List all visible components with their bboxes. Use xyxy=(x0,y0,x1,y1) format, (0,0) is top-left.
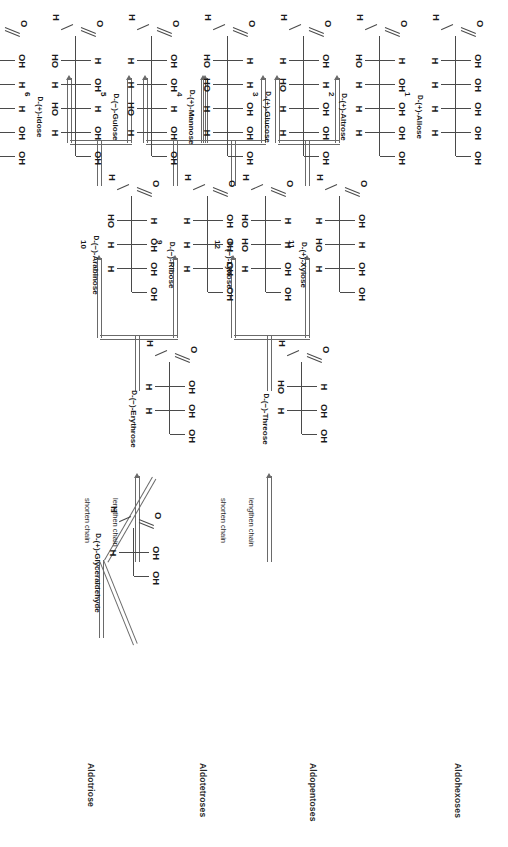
stereocenter-bond-down xyxy=(155,386,170,387)
substituent-hydroxyl: OH xyxy=(18,51,28,71)
stereocenter-bond-up xyxy=(0,84,15,85)
stereocenter-bond-up xyxy=(76,84,91,85)
sugar-name-text: -(+)-Altrose xyxy=(339,98,348,141)
substituent-hydroxyl: OH xyxy=(474,51,484,71)
substituent-hydroxyl: OH xyxy=(94,123,104,143)
sugar-name-text: -(+)-Allose xyxy=(415,100,424,139)
stereocenter-bond-up xyxy=(152,84,167,85)
arrow-threose-branch-riser-12 xyxy=(234,335,272,340)
terminal-bond xyxy=(76,156,91,157)
aldehyde-ch-bond xyxy=(289,24,301,30)
aldehyde-ch-bond xyxy=(193,184,205,190)
substituent-hydrogen: H xyxy=(431,75,441,95)
row-header-aldotetroses: Aldotetroses xyxy=(198,763,208,817)
stereocenter-bond-down xyxy=(289,108,304,109)
substituent-hydrogen: H xyxy=(94,99,104,119)
stereocenter-bond-down xyxy=(441,108,456,109)
substituent-hydrogen: H xyxy=(284,211,294,231)
aldehyde-hydrogen-label: H xyxy=(109,506,120,513)
stereocenter-bond-up xyxy=(266,220,281,221)
substituent-hydroxyl: OH xyxy=(246,123,256,143)
stereocenter-bond-down xyxy=(213,132,228,133)
stereocenter-bond-up xyxy=(456,84,471,85)
stereocenter-bond-down xyxy=(117,220,132,221)
stereocenter-bond-up xyxy=(304,84,319,85)
sugar-name-text: -(−)-Ribose xyxy=(167,246,176,288)
carbonyl-oxygen-label: O xyxy=(189,346,200,353)
sugar-name-caption: D-(−)-Gulose xyxy=(111,62,120,172)
substituent-hydroxyl: OH xyxy=(320,401,330,421)
label-shorten-chain-upper: shorten chain xyxy=(219,498,228,543)
terminal-hydroxyl: OH xyxy=(358,283,368,305)
stereocenter-bond-up xyxy=(228,84,243,85)
substituent-hydrogen: H xyxy=(279,123,289,143)
aldehyde-hydrogen-label: H xyxy=(279,14,290,21)
stereocenter-bond-up xyxy=(170,386,185,387)
carbon-backbone xyxy=(303,36,304,156)
substituent-hydroxyl: OH xyxy=(150,259,160,279)
stereocenter-bond-down xyxy=(251,244,266,245)
arrow-threose-feed xyxy=(267,476,272,562)
stereocenter-bond-down xyxy=(61,132,76,133)
stereocenter-bond-up xyxy=(380,60,395,61)
substituent-hydrogen: H xyxy=(315,259,325,279)
aldehyde-hydrogen-label: H xyxy=(203,14,214,21)
terminal-hydroxyl: OH xyxy=(398,147,408,169)
sugar-name-caption: D-(+)-Altrose xyxy=(339,62,348,172)
substituent-hydrogen: H xyxy=(107,235,117,255)
aldehyde-hydrogen-label: H xyxy=(431,14,442,21)
stereocenter-bond-up xyxy=(340,244,355,245)
substituent-hydroxyl: OH xyxy=(322,51,332,71)
label-lengthen-chain-upper: lengthen chain xyxy=(247,498,256,547)
row-header-aldohexoses: Aldohexoses xyxy=(453,763,463,818)
substituent-hydrogen: H xyxy=(107,259,117,279)
substituent-hydroxyl: OH xyxy=(284,259,294,279)
stereocenter-bond-up xyxy=(76,108,91,109)
carbon-backbone xyxy=(379,36,380,156)
terminal-bond xyxy=(228,156,243,157)
arrowhead-to-mannose xyxy=(66,75,72,80)
stereocenter-bond-down xyxy=(193,220,208,221)
sugar-index-number: 10 xyxy=(79,240,88,249)
terminal-bond xyxy=(340,292,355,293)
stereocenter-bond-up xyxy=(0,132,15,133)
substituent-hydroxyl: HO xyxy=(355,49,365,73)
stereocenter-bond-down xyxy=(213,84,228,85)
aldose-family-tree-diagram: Aldohexoses Aldopentoses Aldotetroses Al… xyxy=(0,0,508,847)
substituent-hydroxyl: HO xyxy=(241,209,251,233)
aldehyde-ch-bond xyxy=(365,24,377,30)
stereocenter-bond-up xyxy=(380,108,395,109)
stereocenter-bond-up xyxy=(0,108,15,109)
stereocenter-bond-down xyxy=(325,268,340,269)
aldehyde-hydrogen-label: H xyxy=(145,340,156,347)
stereocenter-bond-down xyxy=(289,60,304,61)
sugar-name-caption: D-(+)-Glucose xyxy=(263,62,272,172)
carbon-backbone xyxy=(151,36,152,156)
stereocenter-bond-down xyxy=(251,268,266,269)
aldehyde-ch-bond xyxy=(325,184,337,190)
stereocenter-bond-down xyxy=(365,132,380,133)
substituent-hydrogen: H xyxy=(94,51,104,71)
substituent-hydroxyl: HO xyxy=(203,73,213,97)
terminal-hydroxyl: OH xyxy=(284,283,294,305)
terminal-hydroxyl: OH xyxy=(150,283,160,305)
substituent-hydroxyl: OH xyxy=(188,401,198,421)
sugar-name-caption: D-(+)-Xylose xyxy=(299,210,308,320)
stereocenter-bond-down xyxy=(441,84,456,85)
stereocenter-bond-up xyxy=(132,244,147,245)
arrowhead-to-altrose xyxy=(142,75,148,80)
terminal-hydroxyl: OH xyxy=(188,425,198,447)
stereocenter-bond-up xyxy=(228,60,243,61)
sugar-name-text: -(+)-Idose xyxy=(35,101,44,137)
stereocenter-bond-up xyxy=(132,220,147,221)
substituent-hydroxyl: OH xyxy=(398,75,408,95)
substituent-hydroxyl: HO xyxy=(241,233,251,257)
stereocenter-bond-up xyxy=(380,84,395,85)
label-shorten-chain-lower: shorten chain xyxy=(83,498,92,543)
stereocenter-bond-down xyxy=(213,108,228,109)
arrow-erythrose-branch-riser-9 xyxy=(138,335,178,340)
stereocenter-bond-up xyxy=(152,60,167,61)
stereocenter-bond-down xyxy=(441,60,456,61)
carbonyl-oxygen-label: O xyxy=(95,20,106,27)
stereocenter-bond-up xyxy=(208,220,223,221)
